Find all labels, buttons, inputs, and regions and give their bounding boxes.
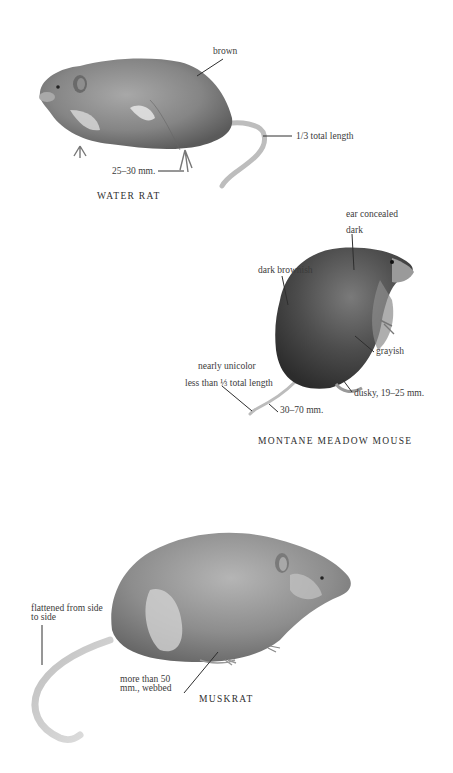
muskrat-illustration <box>35 533 351 740</box>
meadow-mouse-back-label: dark brownish <box>258 265 313 276</box>
muskrat-hind-foot-label: more than 50 mm., webbed <box>120 675 185 693</box>
meadow-mouse-tail-mm-label: 30–70 mm. <box>280 405 323 416</box>
water-rat-fur-label: brown <box>213 46 237 57</box>
meadow-mouse-hind-foot-label: dusky, 19–25 mm. <box>354 388 424 399</box>
water-rat-tail-label: 1/3 total length <box>296 131 354 142</box>
meadow-mouse-belly-label: grayish <box>376 346 404 357</box>
water-rat-hind-foot-label: 25–30 mm. <box>112 166 155 177</box>
muskrat-caption: MUSKRAT <box>199 694 254 704</box>
meadow-mouse-head-label: dark <box>346 225 363 236</box>
water-rat-caption: WATER RAT <box>97 191 161 201</box>
meadow-mouse-caption: MONTANE MEADOW MOUSE <box>258 436 412 446</box>
field-guide-page: brown 1/3 total length 25–30 mm. WATER R… <box>0 0 453 773</box>
meadow-mouse-ear-label: ear concealed <box>346 209 398 220</box>
meadow-mouse-tail-color-label: nearly unicolor <box>198 361 256 372</box>
meadow-mouse-tail-length-label: less than ⅓ total length <box>185 378 273 389</box>
muskrat-tail-label: flattened from side to side <box>31 604 111 622</box>
